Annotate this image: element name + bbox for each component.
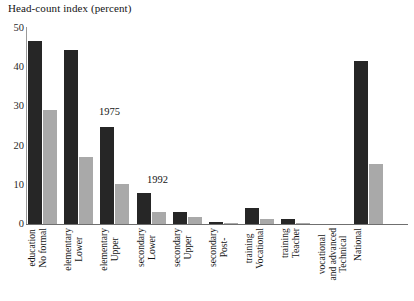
- bar-1992: [369, 164, 383, 224]
- x-axis-label: Lowerelementary: [63, 228, 93, 300]
- bar-group: [137, 28, 167, 224]
- x-axis-label-line: Teacher: [291, 228, 302, 258]
- bar-group: [209, 28, 239, 224]
- bar-1975: [100, 127, 114, 224]
- bar-1975: [209, 222, 223, 224]
- x-axis-label: No formaleducation: [27, 228, 57, 300]
- bar-1992: [79, 157, 93, 224]
- bar-1992: [43, 110, 57, 224]
- bar-1992: [224, 223, 238, 224]
- x-axis-label-line: secondary: [208, 228, 219, 267]
- y-tick-label: 10: [2, 180, 24, 190]
- bar-group: [318, 28, 348, 224]
- chart-container: Head-count index (percent) 01020304050 1…: [0, 0, 414, 301]
- x-axis-label-line: Lower: [74, 228, 85, 271]
- bar-1975: [137, 193, 151, 224]
- bar-group: [245, 28, 275, 224]
- x-axis-label-line: Lower: [146, 228, 157, 267]
- x-axis-label: National: [353, 228, 383, 300]
- x-axis-label-line: No formal: [38, 228, 49, 268]
- annotation-1992: 1992: [147, 174, 168, 185]
- bar-1975: [245, 208, 259, 224]
- bar-1975: [64, 50, 78, 224]
- x-axis-labels: No formaleducationLowerelementaryUpperel…: [27, 228, 408, 301]
- x-axis-label: Upperelementary: [99, 228, 129, 300]
- x-axis-line: [26, 224, 408, 225]
- x-axis-label-line: Post-: [219, 228, 230, 267]
- bar-group: [100, 28, 130, 224]
- annotation-1975: 1975: [99, 106, 120, 117]
- x-axis-label: Lowersecondary: [136, 228, 166, 300]
- bar-group: [28, 28, 58, 224]
- bar-1975: [28, 41, 42, 224]
- y-tick-label: 40: [2, 62, 24, 72]
- bar-1975: [173, 212, 187, 224]
- x-axis-label-line: secondary: [136, 228, 147, 267]
- x-axis-label-line: Upper: [182, 228, 193, 267]
- plot-area: [27, 28, 408, 224]
- bar-group: [173, 28, 203, 224]
- y-tick: 40: [0, 62, 24, 72]
- x-axis-label: Uppersecondary: [172, 228, 202, 300]
- y-tick: 50: [0, 23, 24, 33]
- y-tick-label: 0: [2, 219, 24, 229]
- bar-group: [64, 28, 94, 224]
- x-axis-label-line: vocational: [317, 228, 328, 280]
- bar-1992: [115, 184, 129, 224]
- chart-title: Head-count index (percent): [8, 2, 132, 14]
- y-tick: 0: [0, 219, 24, 229]
- x-axis-label: Technicaland advancedvocational: [317, 228, 347, 300]
- y-tick: 20: [0, 141, 24, 151]
- x-axis-label-line: secondary: [172, 228, 183, 267]
- bar-group: [281, 28, 311, 224]
- bar-1992: [260, 219, 274, 224]
- y-tick-label: 50: [2, 23, 24, 33]
- bar-1992: [152, 212, 166, 224]
- x-axis-label-line: education: [27, 228, 38, 268]
- x-axis-label-line: Vocational: [255, 228, 266, 269]
- bar-1992: [188, 217, 202, 224]
- bar-1975: [281, 219, 295, 224]
- y-tick: 10: [0, 180, 24, 190]
- y-tick-label: 30: [2, 101, 24, 111]
- x-axis-label: Vocationaltraining: [244, 228, 274, 300]
- x-axis-label: Teachertraining: [280, 228, 310, 300]
- bar-group: [354, 28, 384, 224]
- x-axis-label-line: National: [353, 228, 364, 261]
- x-axis-label: Post-secondary: [208, 228, 238, 300]
- y-tick: 30: [0, 101, 24, 111]
- x-axis-label-line: Upper: [110, 228, 121, 271]
- bar-1992: [296, 223, 310, 224]
- bar-1975: [354, 61, 368, 224]
- y-tick-label: 20: [2, 141, 24, 151]
- x-axis-label-line: Technical: [338, 228, 349, 280]
